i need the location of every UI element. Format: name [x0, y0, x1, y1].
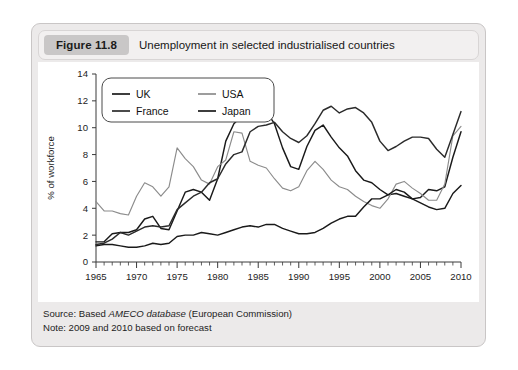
x-tick-label: 2005 [410, 271, 431, 282]
unemployment-line-chart: 0246810121419651970197519801985199019952… [38, 62, 479, 302]
y-tick-label: 10 [77, 122, 88, 133]
legend-label-usa: USA [222, 88, 244, 100]
y-tick-label: 2 [83, 230, 88, 241]
chart-plot-panel: 0246810121419651970197519801985199019952… [38, 62, 479, 302]
series-line-france [96, 106, 461, 244]
figure-card: Figure 11.8 Unemployment in selected ind… [31, 23, 486, 347]
x-tick-label: 1990 [288, 271, 309, 282]
x-tick-label: 2000 [369, 271, 390, 282]
y-tick-label: 12 [77, 95, 88, 106]
x-tick-label: 2010 [450, 271, 471, 282]
y-tick-label: 8 [83, 149, 88, 160]
source-suffix: (European Commission) [186, 308, 292, 319]
x-tick-label: 1965 [85, 271, 106, 282]
y-tick-label: 14 [77, 68, 88, 79]
y-tick-label: 0 [83, 256, 88, 267]
legend-label-france: France [136, 105, 169, 117]
y-tick-label: 4 [83, 203, 89, 214]
source-italic: AMECO database [109, 308, 186, 319]
figure-number-badge: Figure 11.8 [44, 35, 129, 55]
figure-header-bar: Figure 11.8 Unemployment in selected ind… [38, 30, 479, 60]
note-line: Note: 2009 and 2010 based on forecast [43, 321, 473, 335]
x-tick-label: 1980 [207, 271, 228, 282]
x-tick-label: 1970 [126, 271, 147, 282]
y-axis-title: % of workforce [45, 136, 56, 199]
legend-label-uk: UK [136, 88, 151, 100]
x-tick-label: 1975 [166, 271, 187, 282]
chart-legend: UKUSAFranceJapan [102, 78, 274, 122]
x-tick-label: 1995 [329, 271, 350, 282]
series-line-uk [96, 112, 461, 242]
figure-title: Unemployment in selected industrialised … [139, 35, 395, 55]
source-prefix: Source: Based [43, 308, 109, 319]
figure-footnotes: Source: Based AMECO database (European C… [43, 307, 473, 334]
chart-series [96, 106, 461, 247]
y-tick-label: 6 [83, 176, 88, 187]
x-tick-label: 1985 [248, 271, 269, 282]
source-line: Source: Based AMECO database (European C… [43, 307, 473, 321]
legend-label-japan: Japan [222, 105, 251, 117]
